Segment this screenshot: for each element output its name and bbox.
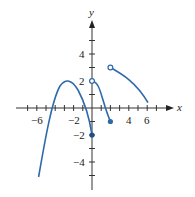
curve-piece-3 xyxy=(110,68,148,103)
open-endpoint xyxy=(108,65,113,70)
x-axis-label: x xyxy=(176,101,182,113)
function-graph: −6 −2 4 6 4 2 −2 −4 x y xyxy=(0,0,195,197)
y-axis-label: y xyxy=(88,6,94,18)
y-tick-label: −2 xyxy=(73,129,85,141)
y-tick-label: 4 xyxy=(79,48,85,60)
curve-piece-2 xyxy=(92,81,110,122)
x-tick-label: −6 xyxy=(31,114,43,126)
x-tick-label: 4 xyxy=(126,114,132,126)
y-tick-label: 2 xyxy=(79,75,85,87)
closed-endpoint xyxy=(89,132,94,137)
y-tick-label: −4 xyxy=(73,156,85,168)
y-axis-arrow-icon xyxy=(89,20,95,28)
x-tick-label: −2 xyxy=(68,114,80,126)
closed-endpoint xyxy=(108,119,113,124)
x-axis-arrow-icon xyxy=(166,105,174,111)
x-tick-label: 6 xyxy=(144,114,150,126)
open-endpoint xyxy=(90,79,95,84)
